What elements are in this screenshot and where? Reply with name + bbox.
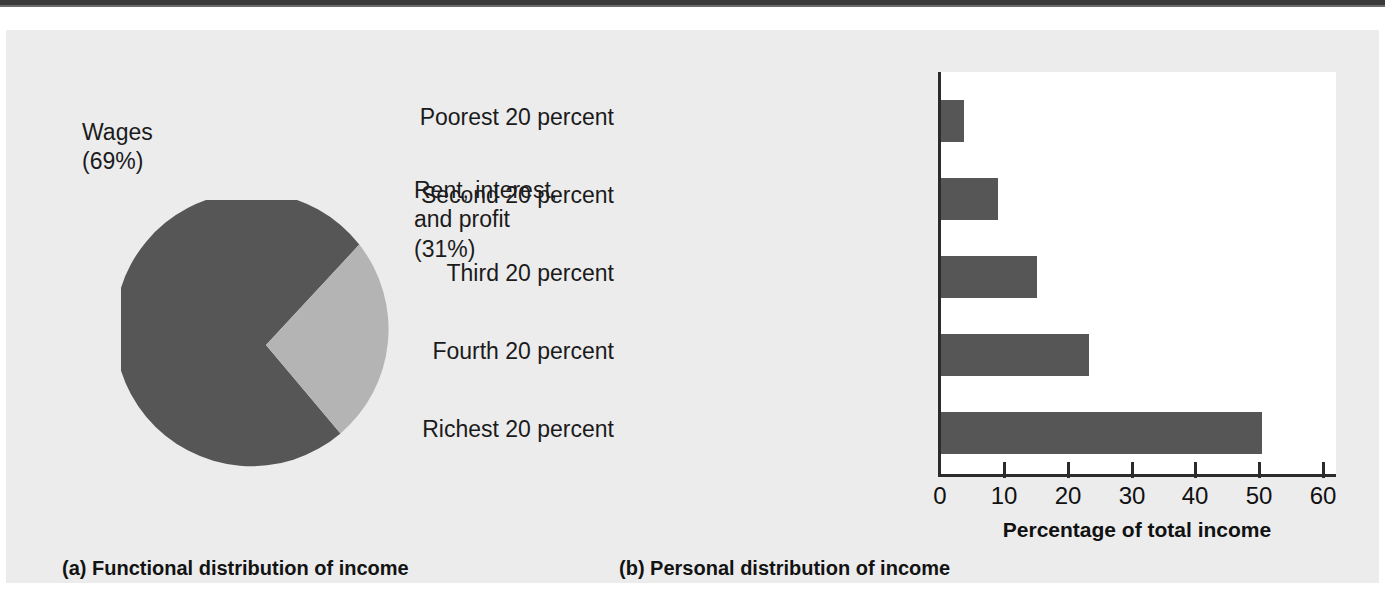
x-tick-50 — [1258, 462, 1261, 478]
x-tick-label-10: 10 — [991, 482, 1018, 510]
caption-panel-b: (b) Personal distribution of income — [619, 557, 950, 580]
y-axis-line — [938, 72, 941, 477]
bar-category-label-poorest: Poorest 20 percent — [420, 104, 614, 131]
bar-third-20-percent — [941, 256, 1037, 298]
x-axis-line — [938, 474, 1336, 477]
x-tick-60 — [1322, 462, 1325, 478]
bar-chart-panel: Poorest 20 percent Second 20 percent Thi… — [616, 70, 1356, 550]
x-tick-label-50: 50 — [1246, 482, 1273, 510]
x-tick-label-40: 40 — [1182, 482, 1209, 510]
bar-category-label-third: Third 20 percent — [447, 260, 614, 287]
x-axis-title: Percentage of total income — [938, 518, 1336, 542]
figure-panel: Wages (69%) Rent, interest, and profit (… — [6, 30, 1379, 583]
bar-richest-20-percent — [941, 412, 1262, 454]
bar-category-label-second: Second 20 percent — [421, 182, 614, 209]
x-tick-label-30: 30 — [1119, 482, 1146, 510]
figure-root: Wages (69%) Rent, interest, and profit (… — [0, 0, 1385, 595]
bar-second-20-percent — [941, 178, 998, 220]
caption-panel-a: (a) Functional distribution of income — [62, 557, 409, 580]
pie-chart-svg — [121, 200, 411, 490]
ghost-text — [22, 42, 26, 59]
bar-poorest-20-percent — [941, 100, 964, 142]
x-tick-label-0: 0 — [933, 482, 946, 510]
x-tick-label-20: 20 — [1055, 482, 1082, 510]
pie-chart-panel: Wages (69%) Rent, interest, and profit (… — [66, 90, 626, 510]
x-tick-30 — [1131, 462, 1134, 478]
x-tick-label-60: 60 — [1310, 482, 1337, 510]
x-tick-10 — [1003, 462, 1006, 478]
bar-fourth-20-percent — [941, 334, 1089, 376]
x-tick-40 — [1194, 462, 1197, 478]
x-tick-20 — [1067, 462, 1070, 478]
top-rule-secondary — [0, 5, 1385, 7]
bar-category-label-richest: Richest 20 percent — [422, 416, 614, 443]
pie-label-wages: Wages (69%) — [82, 118, 153, 177]
bar-category-label-fourth: Fourth 20 percent — [432, 338, 614, 365]
